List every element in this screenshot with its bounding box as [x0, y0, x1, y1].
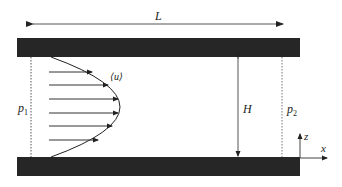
x-axis-label: x: [320, 142, 326, 154]
height-label: H: [242, 102, 253, 116]
mean-velocity-label: ⟨u⟩: [110, 71, 123, 82]
inlet-pressure-label: p1: [17, 101, 28, 117]
z-axis-label: z: [303, 130, 309, 142]
length-label: L: [154, 9, 162, 23]
velocity-arrows: [49, 72, 118, 140]
outlet-pressure-label: p2: [286, 102, 297, 118]
channel-flow-diagram: L ⟨u⟩ p1 H p2 z x: [0, 0, 342, 187]
top-plate: [17, 38, 300, 57]
bottom-plate: [17, 157, 300, 176]
